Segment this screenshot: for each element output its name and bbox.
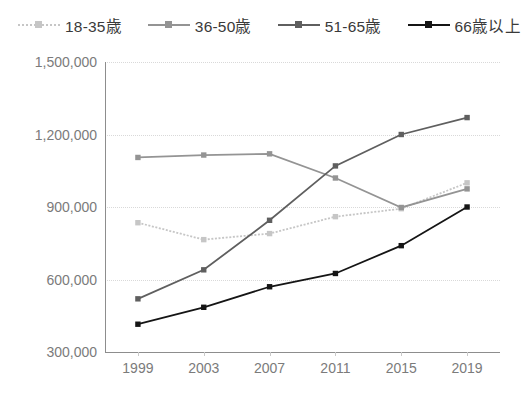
data-point-marker — [399, 205, 404, 210]
series-4 — [135, 204, 470, 327]
data-point-marker — [135, 220, 140, 225]
data-point-marker — [333, 214, 338, 219]
data-point-marker — [201, 305, 206, 310]
data-point-marker — [333, 163, 338, 168]
data-point-marker — [464, 186, 469, 191]
series-3 — [135, 115, 470, 302]
series-line — [138, 118, 467, 299]
data-point-marker — [201, 267, 206, 272]
data-point-marker — [267, 151, 272, 156]
data-point-marker — [267, 218, 272, 223]
series-line — [138, 154, 467, 208]
data-point-marker — [464, 115, 469, 120]
data-point-marker — [135, 155, 140, 160]
data-point-marker — [267, 231, 272, 236]
data-point-marker — [201, 152, 206, 157]
series-1 — [135, 180, 470, 242]
data-point-marker — [399, 132, 404, 137]
data-point-marker — [333, 175, 338, 180]
data-point-marker — [201, 237, 206, 242]
data-point-marker — [333, 271, 338, 276]
data-point-marker — [135, 296, 140, 301]
data-point-marker — [267, 284, 272, 289]
data-point-marker — [464, 180, 469, 185]
data-point-marker — [464, 204, 469, 209]
series-line — [138, 207, 467, 324]
data-point-marker — [399, 243, 404, 248]
data-point-marker — [135, 322, 140, 327]
series-line — [138, 183, 467, 240]
